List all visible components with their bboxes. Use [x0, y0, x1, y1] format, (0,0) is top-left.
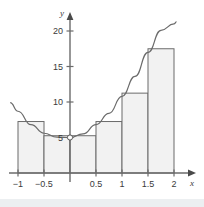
x-tick-label: 0.5 — [90, 179, 103, 189]
y-tick-label: 5 — [58, 133, 63, 143]
y-tick-label: 15 — [53, 62, 63, 72]
y-tick-label: 20 — [53, 26, 63, 36]
footer-band — [0, 199, 204, 207]
riemann-sum-plot: 5101520−1−0.50.511.52 y x — [0, 0, 204, 207]
markers-group — [67, 135, 72, 140]
x-tick-label: 1 — [119, 179, 124, 189]
y-tick-label: 10 — [53, 97, 63, 107]
riemann-rectangle — [18, 122, 44, 173]
x-axis-label: x — [189, 178, 194, 188]
vertex-point-marker — [67, 135, 72, 140]
x-tick-label: −0.5 — [35, 179, 53, 189]
bars-group — [18, 49, 174, 173]
riemann-rectangle — [70, 136, 96, 173]
x-axis-arrow-icon — [188, 169, 196, 176]
x-tick-label: 1.5 — [142, 179, 155, 189]
riemann-rectangle — [148, 49, 174, 173]
riemann-sum-figure: 5101520−1−0.50.511.52 y x — [0, 0, 204, 207]
x-tick-label: 2 — [171, 179, 176, 189]
riemann-rectangle — [122, 93, 148, 173]
x-tick-label: −1 — [13, 179, 23, 189]
y-axis-label: y — [59, 8, 64, 18]
y-axis-arrow-icon — [67, 12, 74, 20]
riemann-rectangle — [96, 122, 122, 173]
